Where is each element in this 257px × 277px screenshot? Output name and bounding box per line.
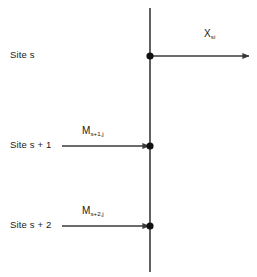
site-label-s-plus-2: Site s + 2 xyxy=(10,220,51,230)
site-label-s: Site s xyxy=(10,50,35,60)
flow-label-x-si: Xsi xyxy=(204,29,215,39)
site-node-s xyxy=(146,52,153,59)
site-node-s-1 xyxy=(146,142,153,149)
flow-symbol-x: X xyxy=(204,28,211,39)
flow-subscript-x-si: si xyxy=(211,33,215,40)
site-label-s-plus-1: Site s + 1 xyxy=(10,140,51,150)
flow-label-m-s-1-j: Ms+1,j xyxy=(82,126,104,136)
flow-subscript-m-s-2-j: s+2,j xyxy=(90,210,103,217)
flow-label-m-s-2-j: Ms+2,j xyxy=(82,206,104,216)
site-node-s-2 xyxy=(146,222,153,229)
site-flow-diagram: Site s Site s + 1 Site s + 2 Xsi Ms+1,j … xyxy=(0,0,257,277)
flow-subscript-m-s-1-j: s+1,j xyxy=(90,130,103,137)
